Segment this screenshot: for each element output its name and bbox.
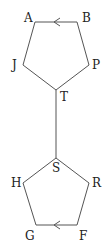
vertex-label-r: R: [92, 176, 102, 190]
vertex-label-f: F: [79, 229, 87, 243]
vertex-label-p: P: [92, 58, 100, 72]
vertex-label-b: B: [82, 11, 91, 25]
vertex-label-t: T: [60, 90, 68, 104]
graph-diagram: A B P T J S R F G H: [0, 0, 108, 246]
vertex-label-s: S: [52, 161, 60, 175]
vertex-label-j: J: [10, 58, 17, 72]
top-pentagon: [23, 22, 89, 90]
vertex-label-g: G: [25, 229, 35, 243]
vertex-label-a: A: [23, 11, 33, 25]
vertex-label-h: H: [11, 176, 21, 190]
